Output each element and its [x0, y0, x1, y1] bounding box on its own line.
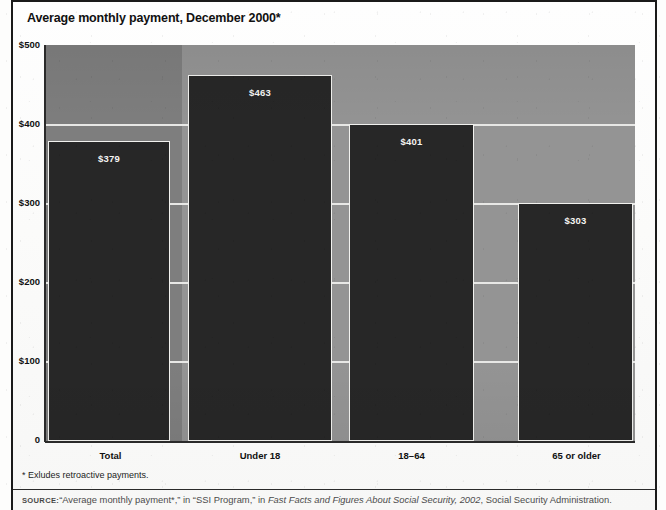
page-rule-top — [11, 0, 657, 2]
plot-area: $379 $463 $401 $303 — [45, 45, 635, 441]
source-citation-part2: , Social Security Administration. — [481, 494, 612, 505]
y-tick-label-500: $500 — [19, 39, 40, 50]
x-label-65-or-older: 65 or older — [518, 450, 635, 461]
x-label-under-18: Under 18 — [188, 450, 332, 461]
gridline-400 — [45, 124, 635, 126]
page-rule-right — [655, 0, 657, 510]
y-tick-label-400: $400 — [19, 118, 40, 129]
source-citation-italic: Fast Facts and Figures About Social Secu… — [268, 494, 481, 505]
bar-value-label-total: $379 — [49, 153, 169, 164]
bar-value-label-65-or-older: $303 — [519, 215, 632, 226]
source-citation-part1: “Average monthly payment*,” in “SSI Prog… — [59, 494, 268, 505]
footnote: * Exludes retroactive payments. — [22, 470, 149, 480]
x-axis-line — [45, 441, 635, 443]
bar-18-64[interactable]: $401 — [349, 124, 474, 441]
source-divider — [13, 489, 655, 490]
y-tick-label-0: 0 — [35, 434, 40, 445]
y-tick-label-200: $200 — [19, 276, 40, 287]
y-axis-tick-labels: $500 $400 $300 $200 $100 0 — [0, 0, 40, 510]
bar-total[interactable]: $379 — [48, 141, 170, 441]
source-line: SOURCE:“Average monthly payment*,” in “S… — [22, 494, 642, 505]
source-label: SOURCE: — [22, 496, 59, 505]
bar-65-or-older[interactable]: $303 — [518, 203, 633, 441]
x-label-18-64: 18–64 — [349, 450, 474, 461]
x-label-total: Total — [48, 450, 173, 461]
y-tick-label-300: $300 — [19, 197, 40, 208]
bar-under-18[interactable]: $463 — [188, 75, 332, 441]
chart-title: Average monthly payment, December 2000* — [27, 11, 281, 25]
figure-container: Average monthly payment, December 2000* … — [0, 0, 666, 510]
y-tick-label-100: $100 — [19, 355, 40, 366]
bar-value-label-18-64: $401 — [350, 136, 473, 147]
bar-value-label-under-18: $463 — [189, 87, 331, 98]
y-axis-line — [44, 45, 46, 442]
